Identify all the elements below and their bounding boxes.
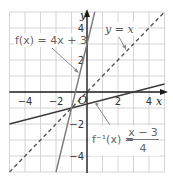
f-inverse-label-numerator: x − 3	[128, 126, 158, 139]
y-tick-label: 4	[78, 23, 84, 34]
x-tick-label: 4	[146, 96, 152, 107]
inverse-function-graph: −4 −2 2 4 4 2 −2 −4 y x O f(x) = 4x + 3 …	[0, 0, 173, 181]
leader-y-equals-x-arrow-icon	[122, 45, 126, 50]
x-tick-label: 2	[115, 96, 121, 107]
y-equals-x-label: y = x	[104, 23, 134, 36]
f-label: f(x) = 4x + 3	[15, 34, 87, 47]
y-tick-label: −4	[69, 151, 84, 162]
x-axis-label: x	[156, 95, 163, 108]
y-tick-label: −2	[69, 119, 84, 130]
y-axis-label: y	[79, 9, 87, 22]
x-tick-label: −2	[49, 96, 64, 107]
f-inverse-label-denominator: 4	[140, 142, 147, 155]
x-tick-label: −4	[18, 96, 33, 107]
